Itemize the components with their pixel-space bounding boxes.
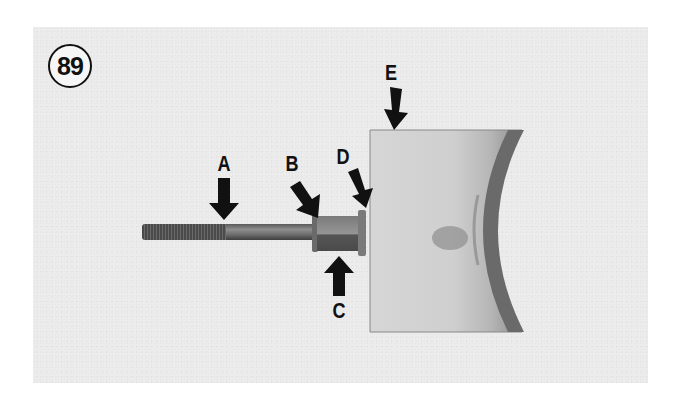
nut-assembly [312, 210, 366, 256]
label-a: A [216, 153, 232, 175]
arrow-c-icon [324, 256, 354, 296]
label-b: B [284, 153, 300, 175]
bearing-shell [370, 130, 524, 332]
label-e: E [383, 62, 399, 84]
figure-number-badge: 89 [48, 44, 92, 88]
arrow-a-icon [209, 178, 239, 220]
part-illustration [0, 0, 686, 402]
arrow-b-icon [290, 181, 320, 218]
arrow-e-icon [384, 87, 408, 130]
arrow-d-icon [348, 168, 373, 208]
figure-number: 89 [57, 52, 83, 81]
threaded-rod [142, 224, 314, 240]
label-c: C [331, 300, 347, 322]
label-d: D [335, 146, 351, 168]
